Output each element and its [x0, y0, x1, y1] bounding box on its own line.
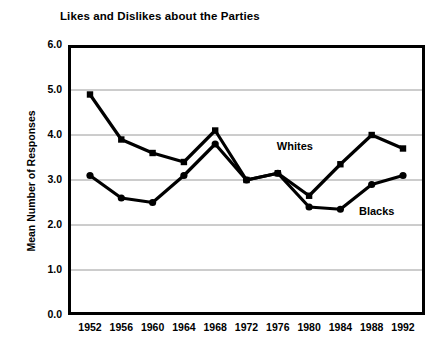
data-point-marker — [87, 91, 93, 97]
y-tick-label: 3.0 — [32, 173, 62, 185]
y-tick-label: 0.0 — [32, 308, 62, 320]
data-point-marker — [149, 199, 156, 206]
series-blacks — [86, 140, 406, 212]
data-point-marker — [212, 140, 219, 147]
data-point-marker — [368, 181, 375, 188]
series-label-blacks: Blacks — [359, 205, 394, 217]
data-point-marker — [399, 172, 406, 179]
y-tick-label: 5.0 — [32, 83, 62, 95]
data-point-marker — [274, 170, 281, 177]
data-point-marker — [181, 159, 187, 165]
y-tick-label: 2.0 — [32, 218, 62, 230]
data-point-marker — [337, 206, 344, 213]
plot-area: WhitesBlacks — [68, 45, 425, 315]
y-tick-label: 1.0 — [32, 263, 62, 275]
data-point-marker — [337, 161, 343, 167]
chart-title: Likes and Dislikes about the Parties — [60, 10, 260, 22]
x-tick-label: 1976 — [266, 321, 289, 333]
data-point-marker — [306, 203, 313, 210]
chart-figure: Likes and Dislikes about the Parties Mea… — [0, 0, 443, 358]
data-point-marker — [118, 194, 125, 201]
x-tick-label: 1972 — [235, 321, 258, 333]
x-tick-label: 1964 — [172, 321, 195, 333]
data-point-marker — [306, 193, 312, 199]
x-tick-label: 1984 — [329, 321, 352, 333]
data-point-marker — [243, 176, 250, 183]
y-tick-label: 4.0 — [32, 128, 62, 140]
data-point-marker — [180, 172, 187, 179]
data-point-marker — [212, 127, 218, 133]
line-chart-svg — [68, 45, 425, 315]
x-tick-label: 1960 — [141, 321, 164, 333]
x-tick-label: 1988 — [360, 321, 383, 333]
x-tick-label: 1952 — [78, 321, 101, 333]
y-tick-label: 6.0 — [32, 38, 62, 50]
data-point-marker — [149, 150, 155, 156]
data-point-marker — [400, 145, 406, 151]
data-point-marker — [369, 132, 375, 138]
data-point-marker — [86, 172, 93, 179]
data-point-marker — [118, 136, 124, 142]
series-label-whites: Whites — [277, 140, 313, 152]
x-tick-label: 1980 — [297, 321, 320, 333]
x-tick-label: 1956 — [110, 321, 133, 333]
x-tick-label: 1968 — [204, 321, 227, 333]
x-tick-label: 1992 — [391, 321, 414, 333]
